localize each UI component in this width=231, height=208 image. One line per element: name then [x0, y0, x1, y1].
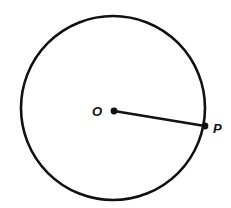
- circle-diagram: O P: [0, 0, 231, 208]
- radius-segment-op: [114, 111, 205, 126]
- label-o: O: [92, 104, 102, 119]
- center-point-o: [111, 108, 118, 115]
- label-p: P: [213, 121, 222, 136]
- point-p: [202, 123, 209, 130]
